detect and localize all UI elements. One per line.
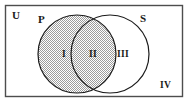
set-label-s: S <box>140 13 146 24</box>
region-label-iii: III <box>117 50 129 60</box>
region-label-ii: II <box>89 50 97 60</box>
region-label-i: I <box>62 50 66 60</box>
universe-label: U <box>12 10 20 21</box>
set-label-p: P <box>38 14 45 25</box>
venn-diagram-figure: U P S I II III IV <box>0 0 190 102</box>
region-label-iv: IV <box>160 81 171 91</box>
